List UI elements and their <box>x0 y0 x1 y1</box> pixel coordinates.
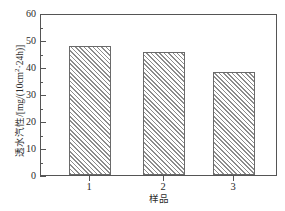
y-tick-50 <box>40 41 46 42</box>
y-tick-minor-35 <box>40 82 43 83</box>
x-tick-label-3: 3 <box>218 181 248 193</box>
y-tick-30 <box>40 95 46 96</box>
bar-chart: 透水汽性/[mg/(10cm2·24h)] 60 50 40 30 20 10 … <box>0 0 285 211</box>
bar-sample-3 <box>213 72 255 175</box>
bar-sample-1 <box>69 46 111 175</box>
y-tick-20 <box>40 122 46 123</box>
y-tick-minor-5 <box>40 163 43 164</box>
y-tick-minor-15 <box>40 136 43 137</box>
y-tick-label-60: 60 <box>6 9 36 19</box>
plot-area <box>40 14 277 176</box>
x-tick-label-2: 2 <box>148 181 178 193</box>
y-tick-10 <box>40 149 46 150</box>
y-tick-label-0: 0 <box>6 171 36 181</box>
y-tick-minor-55 <box>40 28 43 29</box>
y-tick-60 <box>40 14 46 15</box>
x-tick-label-1: 1 <box>74 181 104 193</box>
y-tick-40 <box>40 68 46 69</box>
y-tick-0 <box>40 176 46 177</box>
x-axis-title: 样品 <box>40 194 277 205</box>
y-tick-label-50: 50 <box>6 36 36 46</box>
y-tick-label-10: 10 <box>6 144 36 154</box>
y-tick-minor-45 <box>40 55 43 56</box>
y-tick-label-30: 30 <box>6 90 36 100</box>
y-tick-label-20: 20 <box>6 117 36 127</box>
y-tick-label-40: 40 <box>6 63 36 73</box>
bar-sample-2 <box>143 52 185 175</box>
y-tick-minor-25 <box>40 109 43 110</box>
